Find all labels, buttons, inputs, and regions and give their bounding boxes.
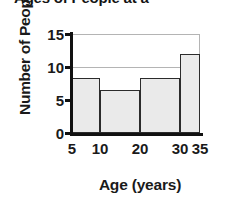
plot-area [72,34,200,133]
histogram-figure: Ages of People at a Number of People 15 … [0,0,241,218]
y-tick-label-10: 10 [38,60,64,75]
x-tick-label-5: 5 [57,141,87,156]
x-tick-label-35: 35 [185,141,215,156]
y-tick-mark-5 [65,99,72,102]
y-tick-label-5: 5 [38,93,64,108]
bar-10-20 [100,90,140,133]
x-axis-line [70,133,203,136]
y-tick-mark-10 [65,66,72,69]
y-tick-mark-0 [65,132,72,135]
x-axis-title: Age (years) [50,176,230,194]
x-tick-label-10: 10 [85,141,115,156]
bar-20-30 [140,78,180,133]
x-tick-label-20: 20 [125,141,155,156]
bar-30-35 [180,54,200,133]
y-axis-title: Number of People [14,0,36,121]
y-tick-label-15: 15 [38,27,64,42]
bar-5-10 [72,78,100,133]
y-axis-line [70,32,73,135]
y-tick-mark-15 [65,33,72,36]
y-tick-label-0: 0 [38,126,64,141]
